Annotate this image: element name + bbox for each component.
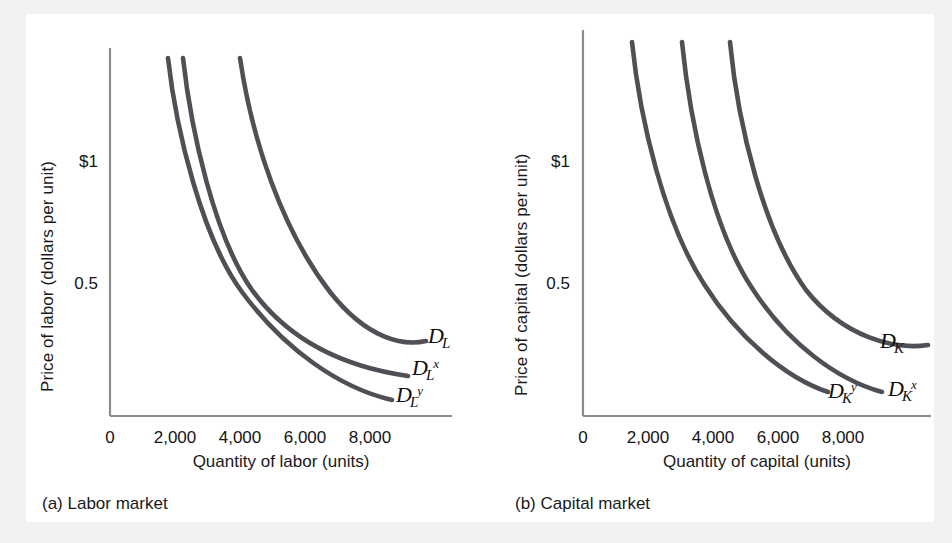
curve-label-sup: y [417,383,423,398]
curve-label-sub: K [894,340,904,356]
curve-d-l-x [183,58,408,376]
curve-label-d-k: DK [880,330,904,356]
curve-d-k-y [632,42,828,392]
curve-label-sup: x [433,356,439,371]
x-tick-label-0: 0 [567,428,599,448]
curve-label-sub: L [442,335,450,351]
curve-d-k-x [682,42,882,392]
x-tick-label-2000: 2,000 [617,428,679,448]
panel-labor-market: Price of labor (dollars per unit) $1 0.5… [0,0,476,543]
x-axis-title: Quantity of labor (units) [110,452,452,472]
x-tick-label-6000: 6,000 [747,428,809,448]
curve-d-l-y [168,58,392,400]
panel-capital-market: Price of capital (dollars per unit) $1 0… [476,0,952,543]
panel-caption-capital: (b) Capital market [515,494,650,514]
curve-label-sup: x [911,377,917,392]
curve-label-d-l-y: DLy [396,384,423,410]
x-tick-label-0: 0 [94,428,126,448]
curve-label-sup: y [851,379,857,394]
figure-container: Price of labor (dollars per unit) $1 0.5… [0,0,952,543]
y-tick-label-0-5: 0.5 [522,274,570,294]
x-axis-title: Quantity of capital (units) [583,452,931,472]
y-tick-label-1: $1 [54,152,98,172]
curve-label-d-l-x: DLx [412,357,439,383]
x-tick-label-2000: 2,000 [144,428,206,448]
curve-d-l [240,58,426,342]
x-tick-label-4000: 4,000 [209,428,271,448]
curve-label-d-k-x: DKx [888,378,917,404]
y-tick-label-0-5: 0.5 [50,274,98,294]
panel-caption-labor: (a) Labor market [42,494,168,514]
x-tick-label-8000: 8,000 [339,428,401,448]
x-tick-label-6000: 6,000 [274,428,336,448]
curve-label-d-k-y: DKy [828,380,857,406]
curve-label-d-l: DL [428,325,450,351]
y-tick-label-1: $1 [526,152,570,172]
x-tick-label-8000: 8,000 [812,428,874,448]
x-tick-label-4000: 4,000 [682,428,744,448]
